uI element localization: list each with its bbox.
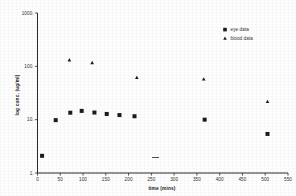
y-tick-label: 1000. [22, 11, 34, 16]
x-tick-label: 550 [284, 177, 292, 182]
data-point-square [68, 111, 72, 115]
data-point-square [105, 112, 109, 116]
x-tick-label: 150 [102, 177, 110, 182]
square-marker-icon [223, 28, 227, 32]
data-point-square [80, 109, 84, 113]
x-tick-label: 300 [170, 177, 178, 182]
data-point-square [266, 132, 270, 136]
data-point-square [203, 118, 207, 122]
legend-label: eye data [231, 27, 250, 32]
legend-entry: blood data [223, 36, 253, 41]
y-tick-label: 100. [24, 64, 33, 69]
x-tick-label: 0 [36, 177, 39, 182]
x-tick-label: 200 [125, 177, 133, 182]
legend-entry: eye data [223, 27, 249, 32]
data-point-triangle [90, 61, 94, 64]
y-axis-title: log conc. (ug/ml) [15, 74, 20, 115]
data-point-triangle [68, 58, 72, 61]
x-tick-label: 400 [216, 177, 224, 182]
x-tick-label: 500 [261, 177, 269, 182]
series-eye-data [40, 109, 269, 158]
x-tick-label: 100 [79, 177, 87, 182]
data-point-square [54, 118, 58, 122]
x-tick-label: 250 [147, 177, 155, 182]
y-tick-label: 1. [30, 171, 34, 176]
y-axis-ticks: 1.10.100.1000. [22, 11, 38, 176]
data-point-triangle [135, 76, 139, 79]
data-point-square [92, 111, 96, 115]
data-point-triangle [202, 77, 206, 80]
x-axis-ticks: 050100150200250300350400450500550 [36, 173, 292, 182]
x-axis-title: time (mins) [148, 186, 175, 191]
x-tick-label: 350 [193, 177, 201, 182]
triangle-marker-icon [223, 36, 227, 39]
data-series-layer [40, 58, 269, 158]
x-tick-label: 50 [58, 177, 64, 182]
data-point-triangle [266, 100, 270, 103]
legend-label: blood data [231, 36, 254, 41]
data-point-square [40, 154, 44, 158]
data-point-square [133, 114, 137, 118]
chart-figure: 1.10.100.1000. 0501001502002503003504004… [0, 0, 296, 196]
x-tick-label: 450 [238, 177, 246, 182]
data-point-square [117, 113, 121, 117]
y-tick-label: 10. [27, 117, 34, 122]
series-blood-data [68, 58, 270, 103]
scatter-plot: 1.10.100.1000. 0501001502002503003504004… [0, 0, 296, 196]
chart-legend: eye datablood data [223, 27, 253, 41]
